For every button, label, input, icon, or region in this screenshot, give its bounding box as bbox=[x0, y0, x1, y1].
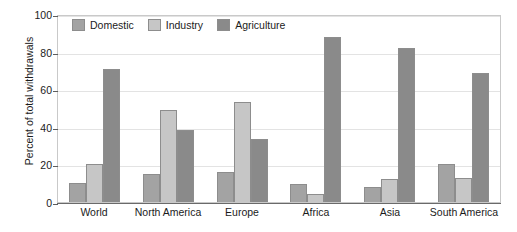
y-axis-tick-label: 20 bbox=[26, 159, 52, 171]
legend-swatch-domestic-icon bbox=[72, 19, 85, 31]
y-axis-tick-labels: 020406080100 bbox=[24, 0, 52, 232]
x-axis-label-south-america: South America bbox=[427, 206, 501, 218]
bar-industry-asia bbox=[381, 179, 398, 203]
bar-domestic-europe bbox=[217, 172, 234, 202]
legend-swatch-industry-icon bbox=[148, 19, 161, 31]
plot-area bbox=[57, 15, 501, 203]
bar-industry-europe bbox=[234, 102, 251, 202]
x-axis-category-labels: WorldNorth AmericaEuropeAfricaAsiaSouth … bbox=[57, 206, 501, 218]
bar-agriculture-south-america bbox=[472, 73, 489, 202]
bar-domestic-south-america bbox=[438, 164, 455, 202]
y-axis-tick-label: 80 bbox=[26, 47, 52, 59]
bar-group bbox=[58, 16, 132, 202]
legend-swatch-agriculture-icon bbox=[217, 19, 230, 31]
bar-agriculture-europe bbox=[251, 139, 268, 202]
legend-label: Industry bbox=[166, 19, 203, 31]
bar-groups bbox=[58, 16, 500, 202]
y-axis-tick-label: 60 bbox=[26, 84, 52, 96]
chart-legend: DomesticIndustryAgriculture bbox=[72, 19, 285, 31]
bar-agriculture-world bbox=[103, 69, 120, 202]
bar-agriculture-africa bbox=[324, 37, 341, 202]
bar-industry-south-america bbox=[455, 178, 472, 202]
bar-domestic-north-america bbox=[143, 174, 160, 202]
bar-group bbox=[132, 16, 206, 202]
bar-agriculture-asia bbox=[398, 48, 415, 202]
y-axis-tick-label: 0 bbox=[26, 197, 52, 209]
bar-group bbox=[279, 16, 353, 202]
bar-group bbox=[205, 16, 279, 202]
bar-industry-north-america bbox=[160, 110, 177, 202]
legend-label: Domestic bbox=[90, 19, 134, 31]
bar-group bbox=[426, 16, 500, 202]
bar-industry-africa bbox=[307, 194, 324, 202]
bar-chart: Percent of total withdrawals 02040608010… bbox=[0, 0, 517, 232]
x-axis-label-africa: Africa bbox=[279, 206, 353, 218]
bar-agriculture-north-america bbox=[177, 130, 194, 202]
x-axis-label-asia: Asia bbox=[353, 206, 427, 218]
bar-domestic-africa bbox=[290, 184, 307, 202]
x-axis-label-world: World bbox=[57, 206, 131, 218]
legend-label: Agriculture bbox=[235, 19, 285, 31]
bar-domestic-asia bbox=[364, 187, 381, 202]
bar-domestic-world bbox=[69, 183, 86, 202]
legend-item-domestic: Domestic bbox=[72, 19, 134, 31]
legend-item-industry: Industry bbox=[148, 19, 203, 31]
legend-item-agriculture: Agriculture bbox=[217, 19, 285, 31]
bar-group bbox=[353, 16, 427, 202]
bar-industry-world bbox=[86, 164, 103, 202]
x-axis-label-north-america: North America bbox=[131, 206, 205, 218]
y-axis-tick-label: 40 bbox=[26, 122, 52, 134]
x-axis-label-europe: Europe bbox=[205, 206, 279, 218]
y-axis-tick-label: 100 bbox=[26, 9, 52, 21]
y-axis-tickmark bbox=[53, 204, 58, 205]
